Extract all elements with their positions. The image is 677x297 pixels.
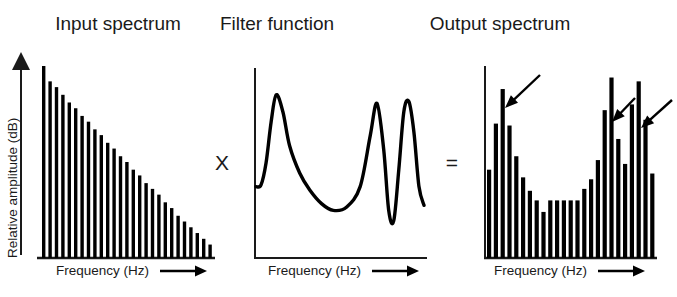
spectrum-bar-21 xyxy=(170,208,173,258)
output-bar-22 xyxy=(630,104,634,258)
output-bar-15 xyxy=(582,189,586,258)
spectrum-bar-12 xyxy=(112,149,115,258)
spectrum-bar-7 xyxy=(80,116,83,258)
output-formant-arrows xyxy=(505,75,672,128)
filter-function-title: Filter function xyxy=(220,13,334,34)
output-bar-3 xyxy=(501,89,505,258)
input-spectrum-title: Input spectrum xyxy=(55,13,181,34)
multiply-operator: X xyxy=(215,151,229,174)
spectrum-bar-25 xyxy=(196,233,199,258)
spectrum-bar-19 xyxy=(157,195,160,258)
output-bar-5 xyxy=(514,156,518,258)
spectrum-bar-5 xyxy=(68,102,71,258)
filter-x-label-arrow-head xyxy=(407,266,419,277)
equals-operator: = xyxy=(446,151,458,174)
output-bar-11 xyxy=(555,200,559,258)
output-bar-23 xyxy=(637,81,641,258)
spectrum-bar-16 xyxy=(138,175,141,258)
spectrum-bar-6 xyxy=(74,108,77,258)
filter-x-axis-label: Frequency (Hz) xyxy=(268,263,361,278)
spectrum-bar-1 xyxy=(42,66,45,258)
input-spectrum-bars xyxy=(42,66,212,258)
output-bar-7 xyxy=(528,191,532,258)
spectrum-bar-18 xyxy=(151,189,154,258)
panel-filter-function: Filter function Frequency (Hz) xyxy=(220,13,427,278)
output-bar-1 xyxy=(487,170,491,258)
spectrum-bar-27 xyxy=(208,245,211,258)
panel-output-spectrum: Output spectrum Frequency (Hz) xyxy=(430,13,672,278)
output-bar-2 xyxy=(494,124,498,258)
spectrum-bar-24 xyxy=(189,227,192,258)
spectrum-bar-4 xyxy=(61,95,64,258)
output-bar-19 xyxy=(609,78,613,258)
output-bar-8 xyxy=(535,200,539,258)
output-bar-16 xyxy=(589,179,593,258)
output-bar-21 xyxy=(623,164,627,258)
spectrum-bar-3 xyxy=(55,87,58,258)
formant-3-arrow-line xyxy=(648,100,672,122)
spectrum-bar-2 xyxy=(48,81,51,258)
output-bar-4 xyxy=(507,126,511,258)
output-bar-13 xyxy=(569,200,573,258)
spectrum-bar-23 xyxy=(183,222,186,258)
formant-1-arrow-line xyxy=(512,75,540,102)
output-bar-17 xyxy=(596,160,600,258)
spectrum-bar-10 xyxy=(100,135,103,258)
spectrum-bar-22 xyxy=(176,216,179,258)
spectrum-bar-17 xyxy=(144,183,147,258)
spectrum-bar-13 xyxy=(119,156,122,258)
input-x-label-arrow-head xyxy=(195,266,207,277)
output-bar-6 xyxy=(521,177,525,258)
output-x-label-arrow-head xyxy=(633,266,645,277)
spectrum-bar-11 xyxy=(106,143,109,258)
input-x-axis-label: Frequency (Hz) xyxy=(56,263,149,278)
output-bar-14 xyxy=(575,200,579,258)
output-bar-10 xyxy=(548,200,552,258)
output-bar-9 xyxy=(541,212,545,258)
output-spectrum-title: Output spectrum xyxy=(430,13,570,34)
spectrum-bar-9 xyxy=(93,129,96,258)
output-bar-25 xyxy=(650,174,654,258)
output-bar-18 xyxy=(603,110,607,258)
spectrum-bar-15 xyxy=(132,170,135,258)
spectrum-bar-8 xyxy=(87,122,90,258)
spectrum-bar-20 xyxy=(164,202,167,258)
filter-response-curve xyxy=(256,95,424,224)
output-bar-24 xyxy=(643,120,647,258)
spectrum-bar-26 xyxy=(202,239,205,258)
output-bar-12 xyxy=(562,200,566,258)
output-x-axis-label: Frequency (Hz) xyxy=(494,263,587,278)
source-filter-diagram: Input spectrum Relative amplitude (dB) F… xyxy=(0,0,677,297)
input-y-axis-label: Relative amplitude (dB) xyxy=(5,118,20,258)
panel-input-spectrum: Input spectrum Relative amplitude (dB) F… xyxy=(5,13,215,278)
output-bar-20 xyxy=(616,139,620,258)
spectrum-bar-14 xyxy=(125,162,128,258)
